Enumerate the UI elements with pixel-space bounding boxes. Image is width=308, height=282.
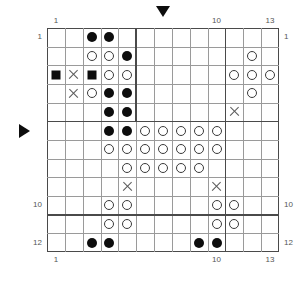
grid-cell[interactable]: [136, 140, 154, 159]
stone-open: [104, 51, 114, 61]
stone-open: [212, 144, 222, 154]
grid-cell[interactable]: [101, 196, 119, 215]
grid-cell[interactable]: [65, 65, 83, 84]
grid-cell[interactable]: [83, 233, 101, 252]
grid-line-horizontal: [47, 177, 279, 178]
row-label-right: 12: [284, 239, 293, 247]
grid-cell[interactable]: [154, 159, 172, 178]
grid-cell[interactable]: [101, 215, 119, 234]
grid-cell[interactable]: [118, 177, 136, 196]
stone-open: [229, 219, 239, 229]
grid-cell[interactable]: [118, 215, 136, 234]
row-label-right: 1: [284, 33, 288, 41]
stone-open: [265, 70, 275, 80]
grid-cell[interactable]: [225, 103, 243, 122]
column-label-top: 1: [54, 17, 58, 25]
grid-cell[interactable]: [118, 65, 136, 84]
grid-cell[interactable]: [118, 159, 136, 178]
x-marker: [122, 181, 133, 192]
grid-cell[interactable]: [101, 121, 119, 140]
square-marker: [87, 70, 96, 79]
column-label-top: 13: [266, 17, 275, 25]
row-label-left: 12: [33, 239, 42, 247]
stone-open: [87, 51, 97, 61]
row-marker-right-icon: [19, 124, 30, 138]
grid-cell[interactable]: [172, 121, 190, 140]
grid-cell[interactable]: [65, 84, 83, 103]
stone-open: [212, 126, 222, 136]
grid-cell[interactable]: [225, 215, 243, 234]
puzzle-board: 11013110131101211012: [0, 0, 308, 282]
grid-cell[interactable]: [47, 65, 65, 84]
grid-cell[interactable]: [118, 103, 136, 122]
grid-cell[interactable]: [101, 47, 119, 66]
stone-filled: [104, 126, 114, 136]
stone-open: [140, 144, 150, 154]
stone-filled: [104, 88, 114, 98]
grid-cell[interactable]: [172, 140, 190, 159]
grid-cell[interactable]: [190, 159, 208, 178]
stone-open: [194, 126, 204, 136]
stone-open: [104, 200, 114, 210]
stone-open: [176, 144, 186, 154]
stone-open: [158, 144, 168, 154]
x-marker: [68, 69, 79, 80]
stone-open: [229, 200, 239, 210]
grid-cell[interactable]: [261, 65, 279, 84]
grid-cell[interactable]: [172, 159, 190, 178]
grid-cell[interactable]: [243, 47, 261, 66]
stone-open: [140, 126, 150, 136]
grid-cell[interactable]: [101, 233, 119, 252]
grid-cell[interactable]: [118, 84, 136, 103]
stone-open: [176, 163, 186, 173]
column-label-top: 10: [212, 17, 221, 25]
grid-cell[interactable]: [208, 177, 226, 196]
grid-cell[interactable]: [136, 121, 154, 140]
grid-cell[interactable]: [101, 28, 119, 47]
grid-cell[interactable]: [154, 121, 172, 140]
grid-cell[interactable]: [243, 65, 261, 84]
stone-open: [194, 144, 204, 154]
grid-cell[interactable]: [225, 196, 243, 215]
grid-cell[interactable]: [118, 47, 136, 66]
grid-cell[interactable]: [83, 84, 101, 103]
stone-open: [122, 163, 132, 173]
grid-cell[interactable]: [101, 84, 119, 103]
grid-cell[interactable]: [154, 140, 172, 159]
grid-cell[interactable]: [208, 233, 226, 252]
grid-cell[interactable]: [83, 28, 101, 47]
grid-cell[interactable]: [83, 47, 101, 66]
stone-open: [194, 163, 204, 173]
grid-cell[interactable]: [190, 233, 208, 252]
grid-cell[interactable]: [208, 140, 226, 159]
square-marker: [51, 70, 60, 79]
grid-cell[interactable]: [208, 196, 226, 215]
x-marker: [68, 88, 79, 99]
grid-cell[interactable]: [118, 196, 136, 215]
grid-cell[interactable]: [136, 159, 154, 178]
grid-cell[interactable]: [225, 65, 243, 84]
stone-open: [140, 163, 150, 173]
grid-cell[interactable]: [101, 140, 119, 159]
stone-filled: [122, 126, 132, 136]
stone-open: [158, 126, 168, 136]
row-label-left: 1: [38, 33, 42, 41]
stone-open: [122, 70, 132, 80]
stone-open: [229, 70, 239, 80]
grid-cell[interactable]: [101, 65, 119, 84]
stone-filled: [122, 107, 132, 117]
stone-filled: [104, 238, 114, 248]
grid-cell[interactable]: [118, 121, 136, 140]
grid-cell[interactable]: [101, 103, 119, 122]
grid-cell[interactable]: [243, 84, 261, 103]
grid-cell[interactable]: [118, 140, 136, 159]
grid-cell[interactable]: [83, 65, 101, 84]
stone-open: [158, 163, 168, 173]
grid-cell[interactable]: [190, 140, 208, 159]
grid-cell[interactable]: [208, 215, 226, 234]
grid-cell[interactable]: [190, 121, 208, 140]
stone-open: [87, 88, 97, 98]
grid-cell[interactable]: [208, 121, 226, 140]
stone-open: [212, 200, 222, 210]
stone-open: [104, 219, 114, 229]
